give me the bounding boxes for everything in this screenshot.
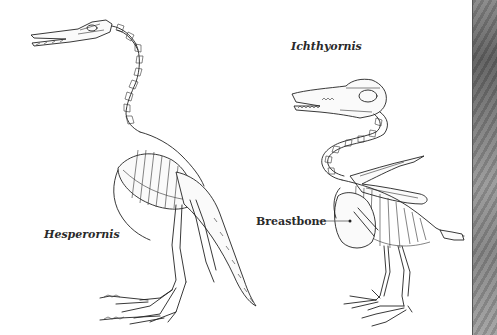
skeleton-drawings bbox=[0, 0, 472, 335]
ichthyornis-label: Ichthyornis bbox=[291, 40, 362, 53]
breastbone-label: Breastbone bbox=[256, 215, 327, 228]
illustration-canvas: Ichthyornis Hesperornis Breastbone bbox=[0, 0, 472, 335]
hesperornis-label: Hesperornis bbox=[44, 228, 120, 241]
hesperornis-skeleton bbox=[31, 20, 256, 324]
ichthyornis-skeleton bbox=[292, 79, 464, 326]
adjacent-photo-edge bbox=[472, 0, 497, 335]
